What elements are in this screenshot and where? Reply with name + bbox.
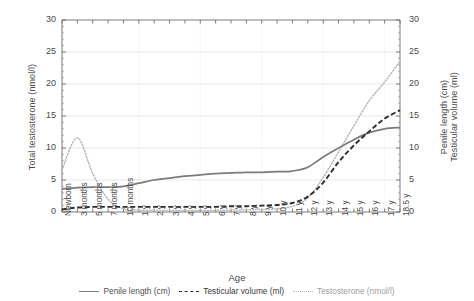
chart-figure: Total testosterone (nmol/l) Penile lengt… (0, 0, 474, 301)
y-tick-label-left: 0 (34, 207, 56, 216)
legend-swatch-dashed-line-icon (179, 288, 199, 295)
x-tick-label: 15 y (357, 201, 365, 216)
legend-swatch-solid-line-icon (79, 288, 99, 295)
x-tick-label: 10 months (127, 178, 135, 216)
y-tick-label-right: 10 (409, 143, 431, 152)
x-axis-label: Age (0, 272, 474, 283)
x-tick-label: 8 y (250, 205, 258, 216)
y-tick-label-right: 15 (409, 111, 431, 120)
y-tick-label-right: 5 (409, 175, 431, 184)
x-tick-label: 12 y (311, 201, 319, 216)
chart-legend: Penile length (cm)Testicular volume (ml)… (0, 286, 474, 296)
x-tick-label: 18.5 y (403, 194, 411, 216)
x-tick-label: 1 y (142, 205, 150, 216)
x-tick-label: 4 y (188, 205, 196, 216)
y-axis-label-right-penile-length: Penile length (cm) (439, 37, 449, 197)
x-tick-label: 17 y (388, 201, 396, 216)
x-tick-label: 6 y (219, 205, 227, 216)
plot-area (0, 0, 474, 301)
x-tick-label: 5 y (203, 205, 211, 216)
y-tick-label-left: 10 (34, 143, 56, 152)
y-tick-label-right: 25 (409, 47, 431, 56)
x-tick-label: 7 y (234, 205, 242, 216)
legend-item[interactable]: Testosterone (nmol/l) (293, 286, 394, 296)
legend-label: Penile length (cm) (103, 286, 170, 296)
y-tick-label-left: 20 (34, 79, 56, 88)
y-tick-label-right: 0 (409, 207, 431, 216)
y-axis-label-right-testicular-volume: Testicular volume (ml) (449, 37, 459, 197)
y-tick-label-right: 20 (409, 79, 431, 88)
x-tick-label: 14 y (342, 201, 350, 216)
x-tick-label: 11 y (296, 201, 304, 216)
y-tick-label-right: 30 (409, 15, 431, 24)
y-tick-label-left: 30 (34, 15, 56, 24)
y-tick-label-left: 5 (34, 175, 56, 184)
y-tick-label-left: 15 (34, 111, 56, 120)
legend-swatch-dotted-line-icon (293, 288, 313, 295)
legend-label: Testicular volume (ml) (203, 286, 284, 296)
legend-item[interactable]: Penile length (cm) (79, 286, 170, 296)
x-tick-label: 3 months (81, 182, 89, 216)
x-tick-label: 2 y (157, 205, 165, 216)
x-tick-label: 16 y (372, 201, 380, 216)
x-tick-label: 13 y (326, 201, 334, 216)
x-tick-label: 5 months (96, 182, 104, 216)
x-tick-label: 3 y (173, 205, 181, 216)
x-tick-label: Newborn (65, 183, 73, 216)
y-tick-label-left: 25 (34, 47, 56, 56)
x-tick-label: 10 y (280, 201, 288, 216)
x-tick-label: 9 y (265, 205, 273, 216)
x-tick-label: 7 months (111, 182, 119, 216)
legend-item[interactable]: Testicular volume (ml) (179, 286, 284, 296)
legend-label: Testosterone (nmol/l) (317, 286, 394, 296)
